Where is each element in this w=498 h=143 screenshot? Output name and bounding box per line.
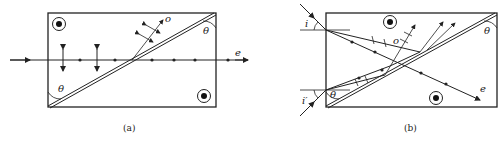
caption-b: (b) [404, 123, 417, 133]
incident-arrow-top-b [306, 10, 314, 18]
panel-a [10, 13, 248, 108]
label-e-a: e [235, 47, 241, 58]
label-theta-top-b: θ [484, 25, 490, 36]
label-o-b: o [393, 35, 399, 46]
label-i-prime-b: i′ [302, 95, 308, 106]
label-theta-top-a: θ [203, 25, 209, 36]
label-theta-bottom-a: θ [58, 83, 64, 94]
caption-a: (a) [123, 123, 135, 133]
label-theta-bottom-b: θ [330, 89, 336, 100]
label-o-a: o [165, 13, 171, 24]
interface-line-b1 [326, 13, 495, 106]
ray-bottom-b2 [326, 75, 385, 90]
label-i-b: i [305, 18, 308, 29]
prism-diagram: θ θ o e (a) [0, 0, 498, 143]
incidence-arc-bottom-b [314, 90, 318, 98]
prism-body-b [326, 13, 497, 107]
interface-line-a2 [50, 15, 216, 108]
label-e-b: e [480, 83, 486, 94]
incidence-arc-top-b [314, 22, 318, 30]
